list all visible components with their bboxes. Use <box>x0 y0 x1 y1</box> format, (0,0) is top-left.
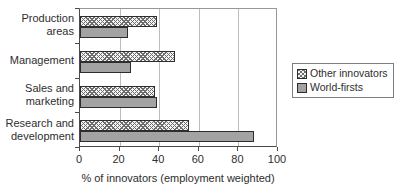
solid-swatch-icon <box>297 83 307 93</box>
hatch-swatch-icon <box>297 69 307 79</box>
x-axis-title: % of innovators (employment weighted) <box>79 172 277 184</box>
category-label: Production areas <box>0 8 74 43</box>
y-axis-tick <box>75 78 79 79</box>
y-axis-tick <box>75 8 79 9</box>
bar-world-firsts <box>80 131 254 142</box>
legend-label: Other innovators <box>310 68 388 79</box>
x-axis-tick <box>237 147 238 151</box>
bar-world-firsts <box>80 27 128 38</box>
bar-other-innovators <box>80 16 157 27</box>
x-axis-tick <box>119 147 120 151</box>
x-axis-tick <box>198 147 199 151</box>
x-axis-tick <box>79 147 80 151</box>
x-axis-tick <box>277 147 278 151</box>
x-tick-label: 100 <box>262 153 292 165</box>
bar-other-innovators <box>80 86 155 97</box>
legend-label: World-firsts <box>310 82 363 93</box>
legend-item: Other innovators <box>297 68 388 79</box>
category-label: Management <box>0 43 74 78</box>
y-axis-tick <box>75 43 79 44</box>
gridline-80 <box>238 9 239 146</box>
legend-item: World-firsts <box>297 82 388 93</box>
category-label: Research and development <box>0 112 74 147</box>
plot-area <box>79 8 277 147</box>
gridline-60 <box>199 9 200 146</box>
x-tick-label: 60 <box>183 153 213 165</box>
bar-chart: Production areasManagementSales and mark… <box>0 0 394 196</box>
bar-other-innovators <box>80 51 175 62</box>
bar-other-innovators <box>80 120 189 131</box>
x-axis-tick <box>158 147 159 151</box>
legend: Other innovatorsWorld-firsts <box>292 63 394 98</box>
x-tick-label: 0 <box>64 153 94 165</box>
x-tick-label: 20 <box>104 153 134 165</box>
bar-world-firsts <box>80 62 131 73</box>
x-tick-label: 40 <box>143 153 173 165</box>
category-label: Sales and marketing <box>0 78 74 113</box>
x-tick-label: 80 <box>222 153 252 165</box>
bar-world-firsts <box>80 97 157 108</box>
y-axis-tick <box>75 112 79 113</box>
